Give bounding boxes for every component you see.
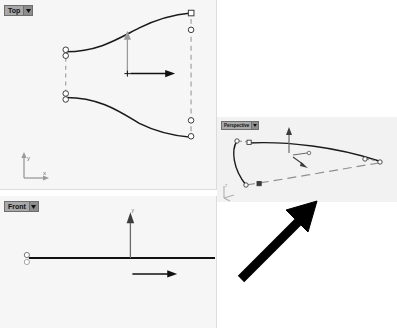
axis-indicator-top: y x bbox=[18, 150, 52, 184]
app-root: y x y bbox=[0, 0, 397, 328]
gumball-z-arrowhead[interactable] bbox=[286, 127, 292, 135]
gumball-y-arrowhead[interactable] bbox=[124, 31, 131, 40]
control-point-selected[interactable] bbox=[188, 10, 194, 16]
gumball-widget[interactable] bbox=[286, 127, 311, 168]
control-point[interactable] bbox=[63, 53, 69, 59]
control-point[interactable] bbox=[24, 259, 29, 264]
gumball-y-arrowhead[interactable] bbox=[127, 212, 135, 223]
gumball-x-axis[interactable] bbox=[293, 153, 307, 155]
axis-x-arrowhead bbox=[43, 175, 49, 180]
gumball-x-arrowhead[interactable] bbox=[165, 70, 175, 77]
chevron-down-icon[interactable] bbox=[251, 122, 258, 129]
curve-lower bbox=[66, 97, 191, 137]
axis-y-arrowhead bbox=[21, 152, 26, 158]
arrow-shaft bbox=[241, 217, 303, 279]
viewport-tab-front[interactable]: Front bbox=[4, 201, 39, 212]
viewport-tab-label: Perspective bbox=[222, 122, 251, 129]
gumball-y-axis[interactable] bbox=[293, 157, 304, 165]
viewport-tab-label: Top bbox=[5, 6, 23, 15]
control-point[interactable] bbox=[378, 160, 382, 164]
chevron-down-icon[interactable] bbox=[29, 202, 38, 211]
curve-upper bbox=[66, 13, 191, 52]
control-polygon-bottom bbox=[246, 163, 379, 185]
gumball-label-y: y bbox=[131, 208, 134, 213]
control-point[interactable] bbox=[63, 97, 69, 103]
viewport-front[interactable]: y bbox=[0, 196, 217, 328]
arrow-head bbox=[286, 201, 317, 232]
curve-upper bbox=[248, 143, 379, 161]
viewport-top[interactable]: y x bbox=[0, 0, 217, 190]
chevron-down-icon[interactable] bbox=[23, 6, 32, 15]
control-polygon-top-left bbox=[238, 141, 249, 142]
control-point[interactable] bbox=[363, 157, 367, 161]
top-view-geometry bbox=[0, 0, 216, 189]
viewport-tab-top[interactable]: Top bbox=[4, 5, 33, 16]
axis-label-y: y bbox=[27, 155, 30, 161]
control-point-selected[interactable] bbox=[247, 140, 251, 144]
control-point[interactable] bbox=[188, 118, 194, 124]
control-point[interactable] bbox=[244, 183, 248, 187]
control-point[interactable] bbox=[63, 47, 69, 53]
viewport-tab-label: Front bbox=[5, 202, 29, 211]
gumball-x-arrowhead[interactable] bbox=[167, 270, 177, 277]
viewport-tab-perspective[interactable]: Perspective bbox=[221, 121, 259, 130]
gumball-y-arrowhead[interactable] bbox=[300, 162, 308, 168]
gumball-x-handle[interactable] bbox=[307, 151, 311, 155]
control-polygon-right bbox=[365, 159, 378, 161]
control-point-selected[interactable] bbox=[257, 182, 261, 186]
curve-left bbox=[234, 141, 246, 185]
control-point[interactable] bbox=[235, 139, 239, 143]
control-point[interactable] bbox=[24, 252, 29, 257]
front-view-geometry: y bbox=[0, 196, 216, 328]
control-point[interactable] bbox=[188, 133, 194, 139]
axis-label-x: x bbox=[43, 170, 46, 176]
gumball-widget[interactable]: y bbox=[127, 208, 178, 277]
control-point[interactable] bbox=[63, 91, 69, 97]
control-point[interactable] bbox=[188, 27, 194, 33]
gumball-widget[interactable] bbox=[124, 31, 175, 77]
